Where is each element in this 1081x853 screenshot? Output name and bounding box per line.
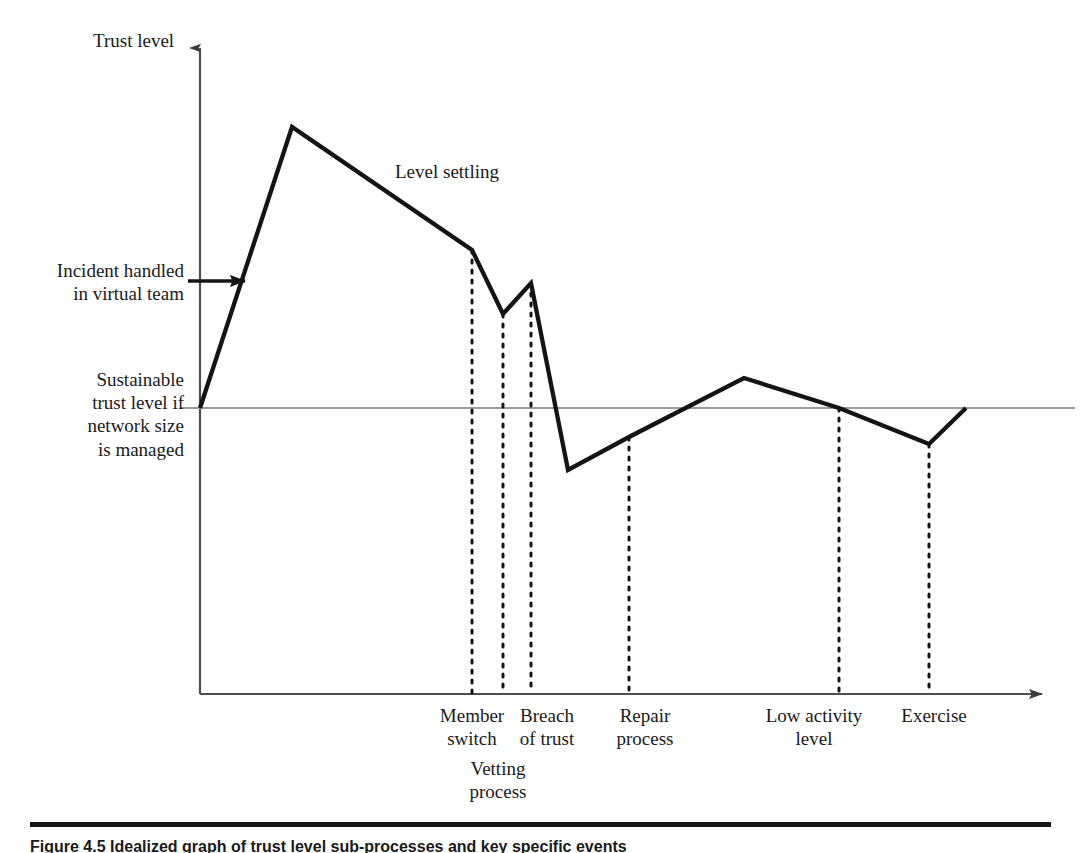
annotation-level-settling: Level settling: [395, 160, 499, 183]
figure-caption: Figure 4.5 Idealized graph of trust leve…: [30, 838, 1051, 853]
caption-rule: [30, 822, 1051, 827]
annotation-incident-handled: Incident handled in virtual team: [28, 259, 184, 305]
x-axis-label-repair-process: Repair process: [565, 704, 725, 750]
annotation-sustainable-trust-level: Sustainable trust level if network size …: [14, 368, 184, 461]
x-axis-label-exercise: Exercise: [854, 704, 1014, 727]
x-axis-label-vetting-process: Vetting process: [418, 757, 578, 803]
y-axis-label: Trust level: [93, 29, 174, 52]
figure-root: Trust level Incident handled in virtual …: [0, 0, 1081, 853]
trust-level-line: [200, 127, 966, 470]
